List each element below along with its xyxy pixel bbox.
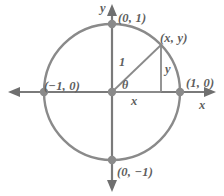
- point-label-right: (1, 0): [186, 77, 214, 90]
- horizontal-leg-label: x: [131, 95, 137, 108]
- y-axis-arrow-down: [107, 180, 117, 192]
- hypotenuse-length-label: 1: [119, 56, 125, 69]
- right-point-marker: [176, 88, 184, 96]
- unit-circle-graphic: [0, 0, 224, 196]
- y-axis-arrow-up: [107, 4, 117, 16]
- y-axis-label: y: [100, 2, 106, 15]
- bottom-point-marker: [108, 156, 116, 164]
- point-label-terminal: (x, y): [160, 32, 188, 45]
- unit-circle-figure: y x (0, 1) (−1, 0) (1, 0) (0, −1) (x, y)…: [0, 0, 224, 196]
- vertical-leg-label: y: [165, 63, 171, 76]
- x-axis-arrow-left: [8, 87, 20, 97]
- theta-angle-label: θ: [122, 79, 128, 91]
- top-point-marker: [108, 20, 116, 28]
- x-axis-label: x: [199, 99, 205, 112]
- origin-point-marker: [108, 88, 116, 96]
- point-label-bottom: (0, −1): [117, 166, 153, 179]
- point-label-left: (−1, 0): [44, 80, 80, 93]
- point-label-top: (0, 1): [118, 12, 146, 25]
